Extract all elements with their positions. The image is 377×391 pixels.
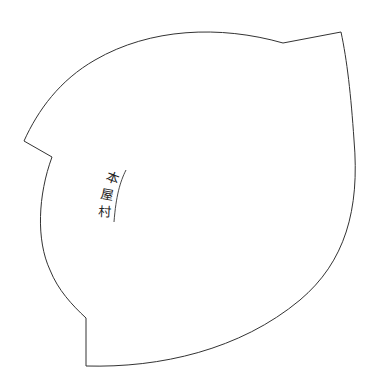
label-char-2: 屋	[100, 186, 115, 203]
map-canvas: 本 屋 村	[0, 0, 377, 391]
region-boundary[interactable]	[24, 32, 355, 366]
label-char-3: 村	[98, 204, 112, 220]
